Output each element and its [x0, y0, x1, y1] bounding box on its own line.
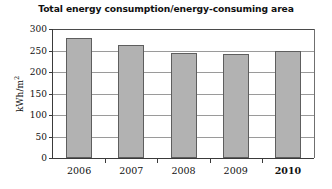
- bar-2007: [118, 45, 144, 158]
- y-axis-tick-mark: [49, 29, 53, 30]
- y-axis-tick-label: 0: [41, 153, 47, 163]
- gridline: [53, 29, 314, 30]
- x-axis-tick-mark: [157, 158, 158, 163]
- y-axis-tick-label: 300: [30, 24, 47, 34]
- bar-2010: [275, 51, 301, 158]
- bar-chart: Total energy consumption/energy-consumin…: [0, 0, 332, 189]
- y-axis-tick-label: 200: [30, 67, 47, 77]
- y-axis-tick-mark: [49, 72, 53, 73]
- y-axis-tick-mark: [49, 158, 53, 159]
- x-axis-tick-label-2010: 2010: [275, 165, 301, 176]
- y-axis-tick-label: 250: [30, 46, 47, 56]
- y-axis-tick-label: 50: [36, 132, 47, 142]
- y-axis-tick-mark: [49, 137, 53, 138]
- y-axis-tick-label: 150: [30, 89, 47, 99]
- x-axis-tick-mark: [262, 158, 263, 163]
- bar-2008: [171, 53, 197, 158]
- x-axis-tick-label-2007: 2007: [119, 165, 143, 176]
- y-axis-title-text: kWh/m: [15, 80, 25, 112]
- x-axis-tick-label-2008: 2008: [171, 165, 195, 176]
- y-axis-tick-mark: [49, 51, 53, 52]
- y-axis-title: kWh/m2: [13, 75, 25, 111]
- chart-title: Total energy consumption/energy-consumin…: [0, 3, 332, 14]
- plot-area: 050100150200250300 20062007200820092010: [52, 29, 314, 159]
- plot-frame-right-edge: [314, 29, 315, 158]
- y-axis-tick-mark: [49, 115, 53, 116]
- y-axis-title-superscript: 2: [13, 75, 21, 79]
- x-axis-tick-mark: [105, 158, 106, 163]
- x-axis-tick-mark: [210, 158, 211, 163]
- x-axis-tick-label-2009: 2009: [224, 165, 248, 176]
- bar-2006: [66, 38, 92, 158]
- bar-2009: [223, 54, 249, 158]
- y-axis-tick-label: 100: [30, 110, 47, 120]
- y-axis-tick-mark: [49, 94, 53, 95]
- x-axis-tick-label-2006: 2006: [67, 165, 91, 176]
